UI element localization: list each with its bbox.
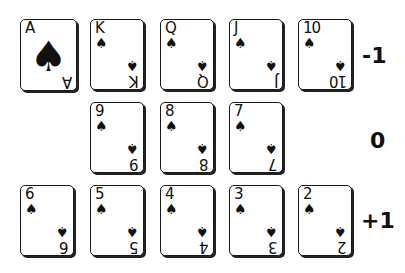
spade-icon: ♠ [95,36,108,50]
spade-icon: ♠ [126,142,139,156]
card-rank-inverted: A [63,74,72,89]
card-rank: 3 [234,187,243,202]
spade-icon: ♠ [95,202,108,216]
spade-icon: ♠ [165,119,178,133]
spade-icon: ♠ [95,119,108,133]
card-king-of-spades: K ♠ ♠ K [90,19,144,90]
spade-icon: ♠ [56,225,69,239]
card-two-of-spades: 2 ♠ ♠ 2 [298,185,352,256]
card-five-of-spades: 5 ♠ ♠ 5 [90,185,144,256]
row-value-label-minus-one: -1 [362,45,386,67]
card-rank-inverted: 7 [269,156,278,171]
card-jack-of-spades: J ♠ ♠ J [229,19,283,90]
spade-icon: ♠ [196,225,209,239]
card-rank: 6 [25,187,34,202]
spade-icon: ♠ [165,202,178,216]
card-rank-inverted: Q [198,73,209,88]
spade-icon: ♠ [303,36,316,50]
card-nine-of-spades: 9 ♠ ♠ 9 [90,102,144,173]
spade-icon: ♠ [234,119,247,133]
card-queen-of-spades: Q ♠ ♠ Q [160,19,214,90]
card-rank: 4 [165,187,174,202]
card-rank: K [95,21,104,36]
card-rank-inverted: 5 [130,239,139,254]
card-rank: J [234,21,237,36]
card-eight-of-spades: 8 ♠ ♠ 8 [160,102,214,173]
spade-icon: ♠ [234,202,247,216]
card-rank-inverted: K [130,73,139,88]
spade-icon: ♠ [126,225,139,239]
spade-icon: ♠ [25,202,38,216]
spade-icon: ♠ [265,142,278,156]
spade-icon: ♠ [334,59,347,73]
spade-icon: ♠ [265,225,278,239]
card-rank-inverted: 2 [338,239,347,254]
spade-icon: ♠ [334,225,347,239]
spade-icon: ♠ [265,59,278,73]
row-value-label-zero: 0 [370,130,385,152]
card-rank-inverted: 10 [330,73,347,88]
row-value-label-plus-one: +1 [361,210,395,232]
card-ace-of-spades: A ♠ A [20,19,77,91]
spade-icon: ♠ [196,59,209,73]
card-rank: 7 [234,104,243,119]
spade-icon: ♠ [126,59,139,73]
card-three-of-spades: 3 ♠ ♠ 3 [229,185,283,256]
card-rank: 8 [165,104,174,119]
card-rank-inverted: 3 [269,239,278,254]
card-rank: Q [165,21,176,36]
card-rank-inverted: 4 [200,239,209,254]
card-rank: 5 [95,187,104,202]
card-rank-inverted: 8 [200,156,209,171]
card-ten-of-spades: 10 ♠ ♠ 10 [298,19,352,90]
card-rank-inverted: J [275,73,278,88]
card-rank: 2 [303,187,312,202]
spade-icon: ♠ [234,36,247,50]
spade-icon: ♠ [165,36,178,50]
card-rank: 10 [303,21,320,36]
spade-icon: ♠ [303,202,316,216]
card-rank: 9 [95,104,104,119]
card-four-of-spades: 4 ♠ ♠ 4 [160,185,214,256]
spade-icon: ♠ [30,36,68,78]
card-rank-inverted: 6 [60,239,69,254]
spade-icon: ♠ [196,142,209,156]
card-seven-of-spades: 7 ♠ ♠ 7 [229,102,283,173]
card-rank-inverted: 9 [130,156,139,171]
card-six-of-spades: 6 ♠ ♠ 6 [20,185,74,256]
